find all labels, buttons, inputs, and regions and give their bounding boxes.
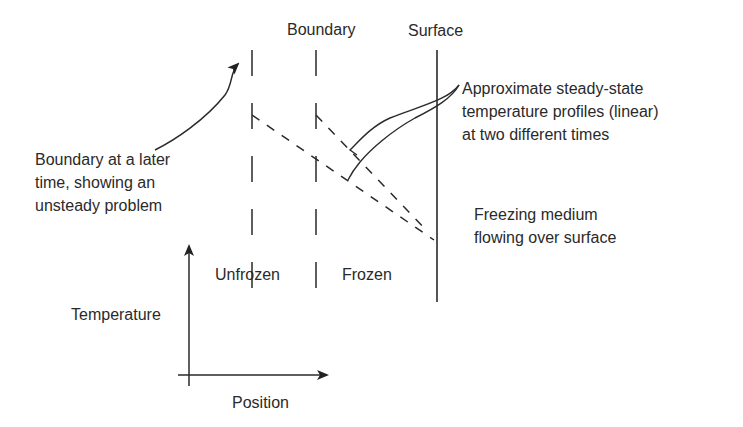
frozen-region-label: Frozen <box>342 264 392 285</box>
later-boundary-arrow <box>155 64 238 150</box>
later-boundary-label-3: unsteady problem <box>35 195 162 216</box>
approx-profiles-label-3: at two different times <box>462 124 609 145</box>
leader-line-lower <box>348 85 459 180</box>
boundary-label: Boundary <box>287 19 356 40</box>
freezing-medium-label-2: flowing over surface <box>474 227 616 248</box>
freezing-medium-label-1: Freezing medium <box>474 204 598 225</box>
approx-profiles-label-2: temperature profiles (linear) <box>462 101 659 122</box>
approx-profiles-label-1: Approximate steady-state <box>462 78 643 99</box>
leader-line-upper <box>350 85 459 155</box>
position-axis-label: Position <box>232 392 289 413</box>
temperature-profile-earlier <box>316 115 428 232</box>
surface-label: Surface <box>408 20 463 41</box>
temperature-axis-label: Temperature <box>71 304 161 325</box>
later-boundary-label-1: Boundary at a later <box>35 149 170 170</box>
later-boundary-label-2: time, showing an <box>35 172 155 193</box>
unfrozen-region-label: Unfrozen <box>215 264 280 285</box>
temperature-profile-later <box>252 115 434 240</box>
